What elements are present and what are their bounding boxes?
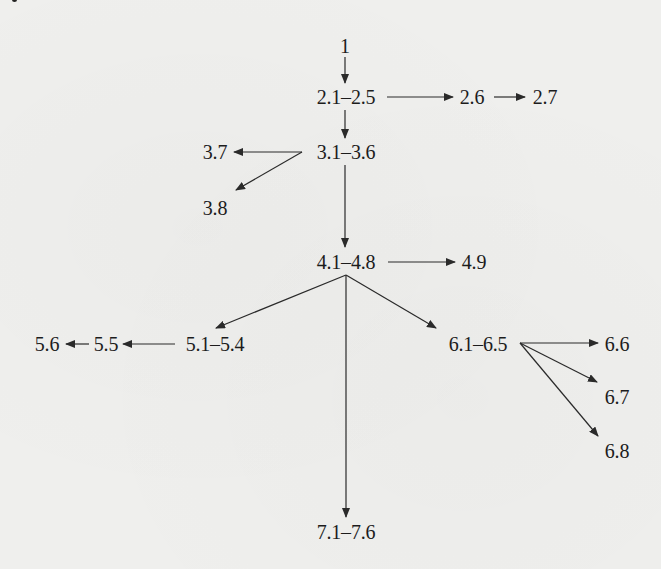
node-6-7: 6.7 xyxy=(605,386,629,408)
edge-layer xyxy=(66,57,598,517)
edge-arrow xyxy=(216,275,346,328)
edge-arrow xyxy=(520,343,597,382)
node-3-7: 3.7 xyxy=(203,141,227,163)
node-3-1-to-3-6: 3.1–3.6 xyxy=(317,141,376,163)
node-5-1-to-5-4: 5.1–5.4 xyxy=(186,333,245,355)
node-2-7: 2.7 xyxy=(533,86,557,108)
node-6-8: 6.8 xyxy=(605,440,629,462)
node-2-6: 2.6 xyxy=(460,86,484,108)
edge-arrow xyxy=(346,275,436,328)
node-1: 1 xyxy=(340,35,350,57)
document-page: 1 2.1–2.5 2.6 2.7 3.1–3.6 3.7 3.8 4.1–4.… xyxy=(0,0,661,569)
node-4-9: 4.9 xyxy=(462,251,486,273)
node-7-1-to-7-6: 7.1–7.6 xyxy=(317,521,376,543)
edge-arrow xyxy=(520,343,598,436)
node-2-1-to-2-5: 2.1–2.5 xyxy=(317,86,376,108)
node-4-1-to-4-8: 4.1–4.8 xyxy=(317,251,376,273)
edge-arrow xyxy=(236,152,302,190)
node-3-8: 3.8 xyxy=(203,197,227,219)
node-5-5: 5.5 xyxy=(94,333,118,355)
node-5-6: 5.6 xyxy=(35,333,59,355)
node-6-6: 6.6 xyxy=(605,333,629,355)
node-6-1-to-6-5: 6.1–6.5 xyxy=(449,333,508,355)
